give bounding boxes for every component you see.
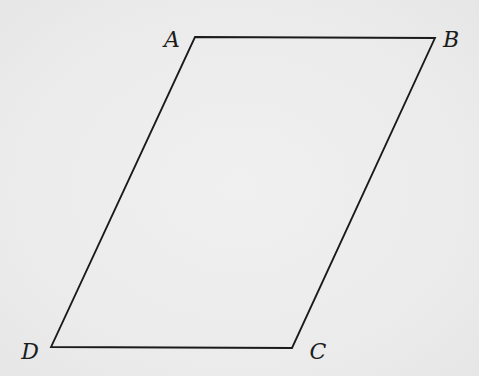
vertex-label-b: B	[443, 29, 459, 51]
parallelogram-abcd	[51, 37, 435, 348]
vertex-label-d: D	[21, 341, 39, 363]
parallelogram-figure	[0, 0, 479, 376]
vertex-label-c: C	[310, 341, 327, 363]
vertex-label-a: A	[164, 29, 180, 51]
parallelogram-diagram: A B C D	[0, 0, 479, 376]
